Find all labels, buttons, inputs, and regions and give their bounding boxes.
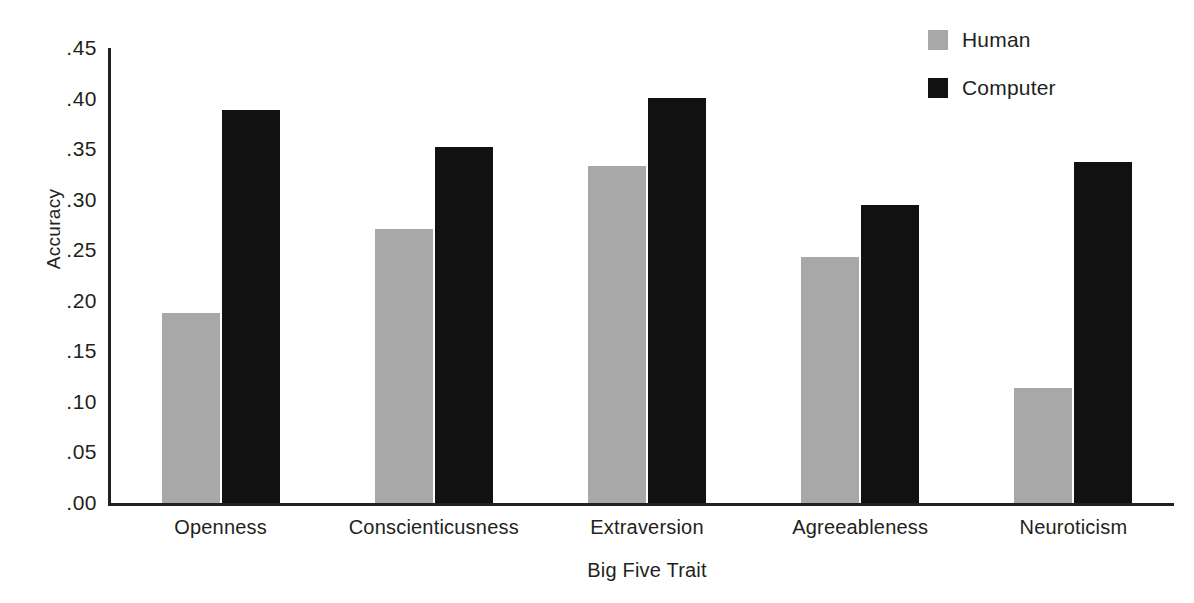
bar-group [375,48,493,503]
bar-human-conscienticusness [375,229,433,503]
bar-group [162,48,280,503]
y-tick-label: .25 [37,238,97,262]
bar-computer-neuroticism [1074,162,1132,503]
y-tick-label: .10 [37,390,97,414]
y-tick-label: .40 [37,87,97,111]
bar-human-neuroticism [1014,388,1072,503]
y-tick-label: .00 [37,491,97,515]
x-tick-label: Agreeableness [792,516,928,539]
y-tick-label: .30 [37,188,97,212]
bar-computer-agreeableness [861,205,919,503]
x-tick-label: Openness [174,516,267,539]
bar-group [588,48,706,503]
plot-area: .45.40.35.30.25.20.15.10.05.00 OpennessC… [108,48,1174,506]
y-tick-label: .35 [37,137,97,161]
bar-human-openness [162,313,220,503]
x-axis-title: Big Five Trait [587,559,707,582]
x-tick-label: Extraversion [590,516,704,539]
y-axis-line [108,48,111,506]
x-tick-label: Conscienticusness [349,516,519,539]
y-tick-label: .45 [37,36,97,60]
bar-chart: Human Computer Accuracy .45.40.35.30.25.… [0,0,1194,603]
x-axis-line [108,503,1174,506]
bar-computer-conscienticusness [435,147,493,503]
bar-human-agreeableness [801,257,859,503]
y-tick-label: .15 [37,339,97,363]
legend-swatch-human [928,30,948,50]
bar-computer-openness [222,110,280,503]
y-tick-label: .20 [37,289,97,313]
x-tick-label: Neuroticism [1020,516,1128,539]
y-tick-label: .05 [37,440,97,464]
bar-computer-extraversion [648,98,706,503]
bar-group [1014,48,1132,503]
bar-group [801,48,919,503]
bar-human-extraversion [588,166,646,503]
